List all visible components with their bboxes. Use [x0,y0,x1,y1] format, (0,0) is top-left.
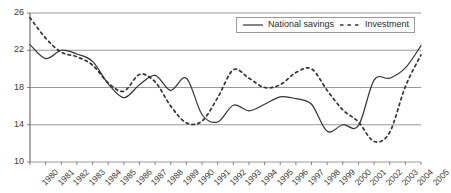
y-axis-tick-label: 10 [2,157,24,166]
y-axis-tick-label: 26 [2,8,24,17]
legend-item-investment: Investment [339,19,409,30]
chart-legend: National savings Investment [236,17,415,33]
y-axis-tick-label: 14 [2,120,24,129]
x-axis-tick-label: 2005 [431,167,451,187]
y-axis-tick-label: 22 [2,45,24,54]
legend-dashed-line-icon [339,20,361,30]
legend-label-investment: Investment [365,19,409,30]
y-axis-tick-label: 18 [2,83,24,92]
legend-solid-line-icon [242,20,264,30]
legend-item-national-savings: National savings [242,19,334,30]
legend-label-national-savings: National savings [268,19,334,30]
series-line-investment [30,18,421,142]
series-line-national-savings [30,45,421,132]
